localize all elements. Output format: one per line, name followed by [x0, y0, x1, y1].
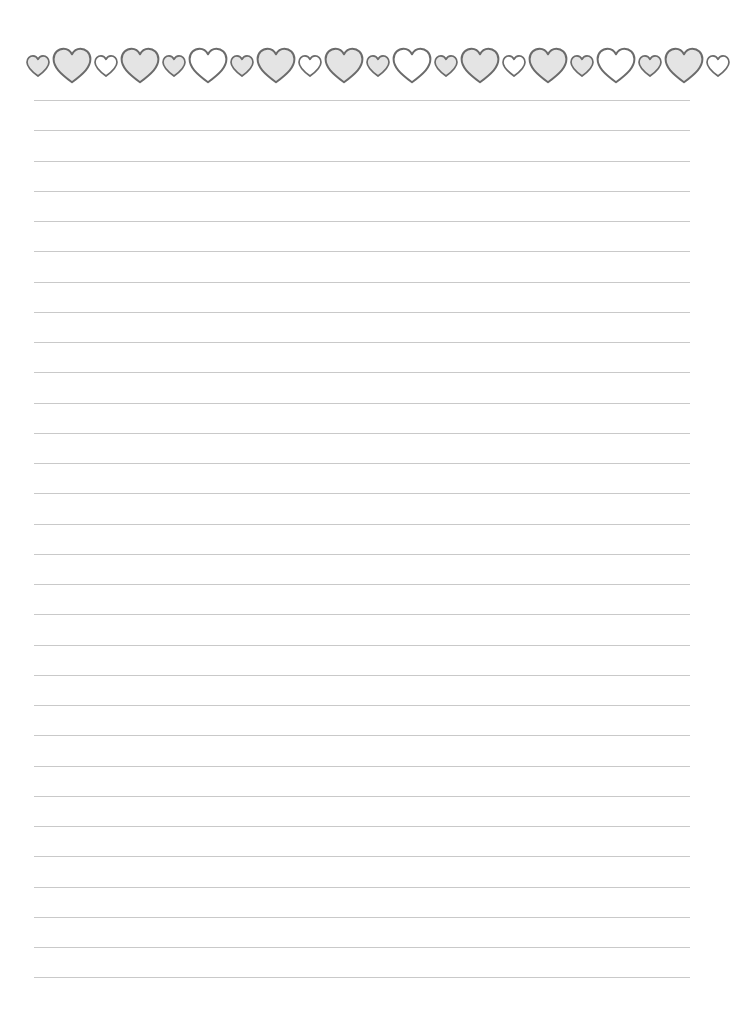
ruled-line [34, 524, 690, 525]
ruled-line [34, 554, 690, 555]
ruled-line [34, 100, 690, 101]
ruled-line [34, 705, 690, 706]
ruled-line [34, 221, 690, 222]
ruled-line [34, 282, 690, 283]
ruled-line [34, 130, 690, 131]
ruled-line [34, 191, 690, 192]
ruled-line [34, 584, 690, 585]
ruled-line [34, 493, 690, 494]
ruled-line [34, 433, 690, 434]
ruled-line [34, 826, 690, 827]
ruled-line [34, 312, 690, 313]
ruled-line [34, 977, 690, 978]
ruled-line [34, 614, 690, 615]
ruled-line [34, 796, 690, 797]
ruled-line [34, 645, 690, 646]
ruled-line [34, 735, 690, 736]
ruled-line [34, 403, 690, 404]
ruled-line [34, 372, 690, 373]
ruled-line [34, 342, 690, 343]
ruled-line [34, 766, 690, 767]
ruled-line [34, 251, 690, 252]
ruled-line [34, 463, 690, 464]
ruled-line [34, 887, 690, 888]
ruled-line [34, 947, 690, 948]
ruled-line [34, 917, 690, 918]
ruled-line [34, 675, 690, 676]
ruled-line [34, 856, 690, 857]
ruled-line [34, 161, 690, 162]
